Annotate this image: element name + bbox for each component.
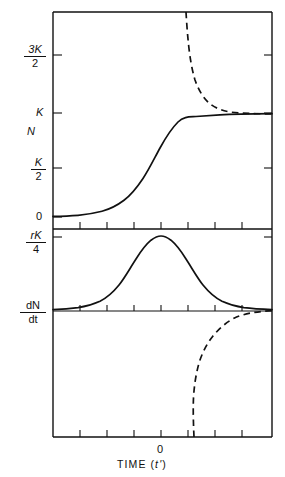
y-tick-label-3k-over-2: 3K 2: [24, 44, 46, 69]
bottom-axis-x-ticks: [80, 430, 242, 437]
lower-panel-frame: [53, 229, 272, 437]
y-tick-label-k-over-2: K 2: [31, 157, 46, 182]
logistic-dashed-curve: [186, 12, 272, 114]
logistic-solid-curve: [53, 114, 272, 217]
x-tick-label-zero: 0: [157, 444, 163, 455]
upper-y-ticks-right: [264, 55, 272, 168]
x-axis-title: TIME (t'): [117, 459, 167, 470]
upper-x-ticks: [80, 222, 242, 229]
y-tick-label-k: K: [36, 107, 43, 118]
lower-y-axis-title: dN dt: [20, 300, 46, 325]
figure-container: 3K 2 K N K 2 0 rK 4 dN dt 0 TIME (t'): [0, 0, 285, 477]
upper-panel-frame: [53, 12, 272, 229]
y-tick-label-zero: 0: [36, 211, 42, 222]
lower-baseline-x-ticks: [80, 305, 242, 311]
upper-y-ticks: [53, 55, 62, 217]
growth-rate-solid-curve: [53, 236, 272, 310]
growth-rate-dashed-curve: [193, 311, 272, 437]
x-axis-title-suffix: ): [162, 458, 167, 470]
upper-y-axis-title: N: [27, 126, 35, 137]
y-tick-label-rk-over-4: rK 4: [26, 230, 46, 255]
x-axis-title-prefix: TIME (: [117, 458, 155, 470]
